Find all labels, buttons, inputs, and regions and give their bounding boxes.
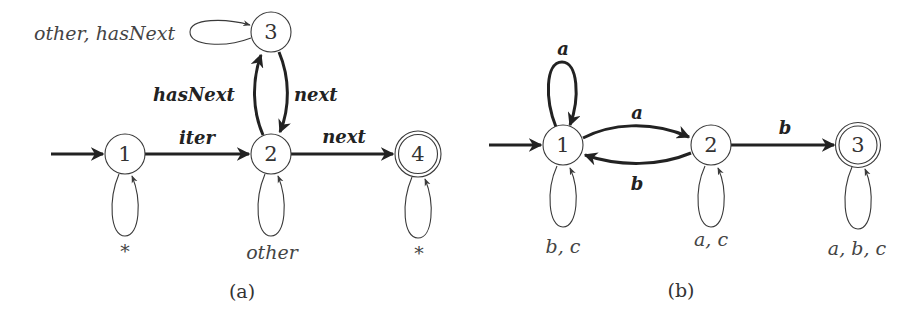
self-loop-a-2 [258, 174, 284, 236]
self-loop-b-3 [845, 167, 871, 229]
edge-label-hasNext: hasNext [153, 84, 236, 105]
state-b-2: 2 [691, 125, 731, 165]
state-label: 4 [411, 142, 424, 166]
self-loop-a-1 [112, 174, 138, 236]
loop-label-b-1-a: a [557, 38, 569, 59]
loop-label-b-3: a, b, c [828, 237, 887, 259]
state-b-3-accepting: 3 [836, 123, 881, 168]
edge-label-b-2-1: b [631, 173, 644, 194]
loop-label-4: * [414, 242, 424, 264]
edge-label-b-1-2: a [631, 102, 643, 123]
edge-label-next-2-4: next [322, 126, 366, 147]
state-a-3: 3 [251, 12, 291, 52]
state-label: 2 [264, 142, 277, 166]
edge-label-next-3-2: next [294, 84, 338, 105]
self-loop-b-1-a [548, 62, 576, 127]
state-label: 3 [851, 133, 864, 157]
loop-label-3: other, hasNext [34, 22, 176, 44]
state-label: 1 [556, 133, 569, 157]
edge-b-1-2 [583, 126, 689, 138]
loop-label-b-2: a, c [694, 228, 728, 250]
state-label: 1 [118, 142, 131, 166]
state-label: 2 [704, 133, 717, 157]
automata-figure: iter next hasNext next other, hasNext * … [0, 0, 922, 324]
state-a-1: 1 [105, 134, 145, 174]
edge-label-iter: iter [179, 127, 217, 148]
edge-b-2-1 [585, 153, 691, 163]
edge-a-2-3 [254, 55, 263, 135]
caption-a: (a) [229, 280, 255, 302]
loop-label-2: other [246, 241, 300, 263]
caption-b: (b) [668, 279, 695, 301]
diagram-a: iter next hasNext next other, hasNext * … [34, 12, 441, 302]
edge-label-b-2-3: b [779, 117, 792, 138]
self-loop-a-3 [190, 20, 251, 44]
state-a-4-accepting: 4 [395, 131, 441, 177]
self-loop-b-1 [550, 166, 576, 227]
loop-label-1: * [120, 240, 130, 262]
state-b-1: 1 [543, 125, 583, 165]
state-label: 3 [264, 20, 277, 44]
self-loop-a-4 [405, 177, 431, 238]
self-loop-b-2 [698, 166, 724, 227]
loop-label-b-1: b, c [546, 235, 581, 257]
edge-a-3-2 [279, 52, 287, 132]
diagram-b: a a b b b, c a, c a, b, c 1 2 3 ( [489, 38, 887, 301]
state-a-2: 2 [251, 134, 291, 174]
